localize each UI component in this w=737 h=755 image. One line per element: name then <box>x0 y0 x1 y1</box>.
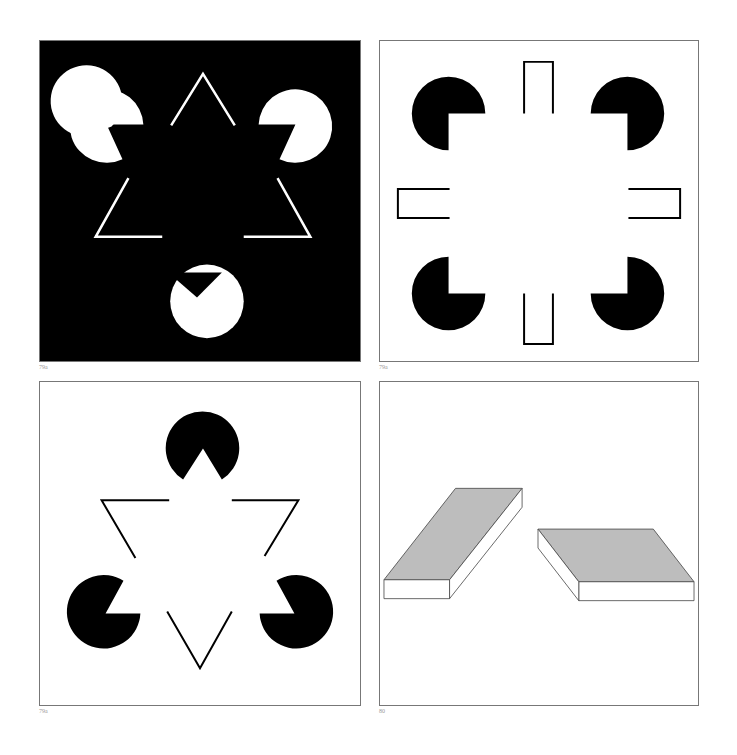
figure-caption: 80 <box>379 708 385 714</box>
kanizsa-triangle-inverse-figure <box>40 41 360 361</box>
figure-79a-square-panel <box>379 40 699 362</box>
figure-caption: 79a <box>379 364 388 370</box>
shepard-tables-figure <box>380 382 698 705</box>
figure-caption: 79a <box>39 364 48 370</box>
figure-80-tables-panel <box>379 381 699 706</box>
illusory-square-figure <box>380 41 698 361</box>
outline-triangle <box>102 500 299 668</box>
figure-79a-triangle-panel <box>39 381 361 706</box>
kanizsa-triangle-figure <box>40 382 360 705</box>
pacman-inducers <box>67 411 333 648</box>
left-slab <box>384 488 522 598</box>
figure-79a-black-panel <box>39 40 361 362</box>
right-slab <box>538 529 694 601</box>
quarter-cut-disks <box>412 77 664 330</box>
figure-caption: 79a <box>39 708 48 714</box>
